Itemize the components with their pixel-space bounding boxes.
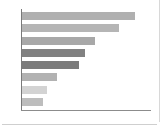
bar-row [22, 36, 151, 48]
bar-row [22, 72, 151, 84]
bar-row [22, 85, 151, 97]
bar-item[interactable] [22, 61, 79, 69]
bar-row [22, 11, 151, 23]
bar-chart-plot-area [21, 9, 151, 112]
x-axis-line [21, 110, 151, 111]
bar-row [22, 60, 151, 72]
chart-panel [0, 0, 160, 122]
bar-item[interactable] [22, 12, 135, 20]
bar-item[interactable] [22, 24, 119, 32]
bar-item[interactable] [22, 73, 57, 81]
bar-item[interactable] [22, 86, 47, 94]
bar-row [22, 23, 151, 35]
bar-row [22, 48, 151, 60]
screenshot-root [0, 0, 161, 136]
bar-row [22, 97, 151, 109]
section-divider [2, 124, 157, 125]
bar-series [22, 11, 151, 110]
bar-item[interactable] [22, 98, 43, 106]
bar-item[interactable] [22, 37, 95, 45]
bar-item[interactable] [22, 49, 85, 57]
